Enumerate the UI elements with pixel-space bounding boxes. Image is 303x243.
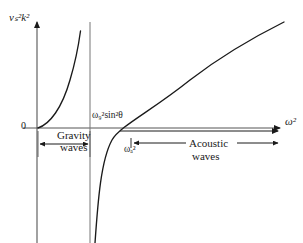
y-axis-label: vₛ²k²	[9, 12, 29, 23]
gravity-waves-label-line2: waves	[60, 142, 88, 153]
acoustic-waves-label-line1: Acoustic	[189, 138, 228, 149]
asymptote-value-label: ω₉²sin²θ	[92, 111, 123, 121]
gravity-waves-label-line1: Gravity	[57, 130, 91, 141]
acoustic-waves-label-line2: waves	[192, 151, 220, 162]
diagram-canvas	[0, 0, 303, 243]
acoustic-branch-curve	[95, 22, 284, 243]
dispersion-diagram: vₛ²k² 0 ω² Gravity waves ω₉²sin²θ ωₐ² Ac…	[0, 0, 303, 243]
x-axis-label: ω²	[285, 116, 296, 127]
omega-a-squared-label: ωₐ²	[124, 145, 136, 155]
origin-label: 0	[21, 121, 26, 131]
gravity-branch-curve	[38, 31, 81, 128]
